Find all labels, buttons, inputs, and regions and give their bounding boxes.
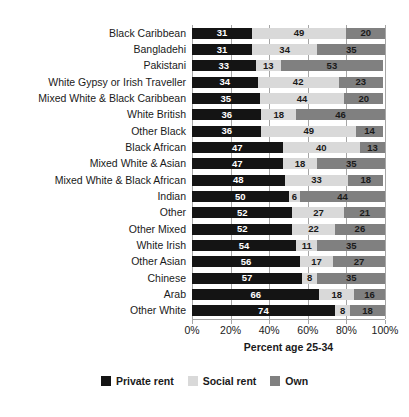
bar-segment-social[interactable]: 49 (252, 28, 347, 39)
bar-segment-private[interactable]: 74 (192, 305, 335, 316)
bar-segment-own[interactable]: 13 (360, 142, 385, 153)
plot-area: 3149203134353313533442233544203618463649… (192, 25, 385, 319)
bar-segment-own[interactable]: 27 (333, 256, 385, 267)
legend-swatch-private-icon (101, 376, 111, 386)
bar-segment-own[interactable]: 35 (317, 273, 385, 284)
bar-segment-own[interactable]: 35 (317, 240, 385, 251)
bar-segment-private[interactable]: 66 (192, 289, 319, 300)
bar-row[interactable]: 314920 (192, 28, 385, 39)
bar-rows: 3149203134353313533442233544203618463649… (192, 25, 385, 319)
bar-segment-social[interactable]: 44 (260, 93, 345, 104)
bar-row[interactable]: 541135 (192, 240, 385, 251)
bar-segment-private[interactable]: 57 (192, 273, 302, 284)
x-axis-tick-labels: 0%20%40%60%80%100% (192, 324, 385, 338)
bar-segment-own[interactable]: 26 (335, 224, 385, 235)
bar-row[interactable]: 474013 (192, 142, 385, 153)
legend-label: Own (285, 375, 308, 387)
bar-segment-social[interactable]: 17 (300, 256, 333, 267)
bar-segment-own[interactable]: 20 (344, 93, 383, 104)
bar-segment-private[interactable]: 56 (192, 256, 300, 267)
gridline (385, 25, 386, 319)
x-axis-tick-label: 80% (336, 324, 357, 336)
bar-value-label: 31 (217, 45, 228, 55)
bar-segment-own[interactable]: 35 (317, 158, 385, 169)
bar-segment-private[interactable]: 31 (192, 44, 252, 55)
bar-segment-social[interactable]: 34 (252, 44, 318, 55)
bar-segment-own[interactable]: 44 (300, 191, 385, 202)
bar-row[interactable]: 344223 (192, 77, 385, 88)
bar-segment-own[interactable]: 46 (296, 109, 385, 120)
bar-row[interactable]: 522721 (192, 207, 385, 218)
bar-segment-private[interactable]: 54 (192, 240, 296, 251)
bar-segment-social[interactable]: 33 (285, 175, 349, 186)
legend-item-own[interactable]: Own (270, 375, 308, 387)
category-axis-labels: Black CaribbeanBangladehiPakistaniWhite … (0, 25, 186, 319)
bar-segment-social[interactable]: 40 (283, 142, 360, 153)
bar-segment-social[interactable]: 8 (302, 273, 317, 284)
bar-segment-own[interactable]: 53 (281, 60, 383, 71)
bar-value-label: 13 (367, 143, 378, 153)
bar-row[interactable]: 561727 (192, 256, 385, 267)
legend-item-private[interactable]: Private rent (101, 375, 174, 387)
bar-row[interactable]: 364914 (192, 126, 385, 137)
bar-value-label: 40 (316, 143, 327, 153)
bar-row[interactable]: 483318 (192, 175, 385, 186)
bar-segment-social[interactable]: 6 (289, 191, 301, 202)
bar-segment-private[interactable]: 47 (192, 158, 283, 169)
bar-row[interactable]: 361846 (192, 109, 385, 120)
bar-segment-private[interactable]: 31 (192, 28, 252, 39)
bar-segment-social[interactable]: 8 (335, 305, 350, 316)
bar-segment-social[interactable]: 13 (256, 60, 281, 71)
bar-segment-own[interactable]: 20 (346, 28, 385, 39)
bar-segment-private[interactable]: 50 (192, 191, 289, 202)
bar-segment-social[interactable]: 27 (292, 207, 344, 218)
bar-row[interactable]: 522226 (192, 224, 385, 235)
legend-item-social[interactable]: Social rent (188, 375, 257, 387)
bar-value-label: 48 (233, 175, 244, 185)
bar-segment-private[interactable]: 47 (192, 142, 283, 153)
bar-segment-social[interactable]: 49 (261, 126, 356, 137)
bar-segment-own[interactable]: 16 (354, 289, 385, 300)
bar-segment-social[interactable]: 11 (296, 240, 317, 251)
bar-segment-social[interactable]: 18 (319, 289, 354, 300)
bar-segment-own[interactable]: 35 (317, 44, 385, 55)
bar-value-label: 49 (303, 126, 314, 136)
bar-row[interactable]: 471835 (192, 158, 385, 169)
bar-value-label: 26 (355, 224, 366, 234)
category-label: Mixed White & Asian (0, 158, 186, 169)
bar-segment-private[interactable]: 35 (192, 93, 260, 104)
bar-segment-own[interactable]: 23 (339, 77, 383, 88)
bar-value-label: 27 (354, 257, 365, 267)
bar-segment-social[interactable]: 18 (283, 158, 318, 169)
bar-row[interactable]: 50644 (192, 191, 385, 202)
bar-row[interactable]: 354420 (192, 93, 385, 104)
x-axis-tick-label: 20% (220, 324, 241, 336)
bar-segment-own[interactable]: 18 (350, 305, 385, 316)
bar-value-label: 35 (220, 94, 231, 104)
category-label: Chinese (0, 273, 186, 284)
category-label: Other White (0, 305, 186, 316)
bar-segment-private[interactable]: 34 (192, 77, 258, 88)
bar-segment-own[interactable]: 21 (344, 207, 385, 218)
bar-value-label: 33 (219, 61, 230, 71)
bar-value-label: 18 (360, 175, 371, 185)
bar-segment-social[interactable]: 22 (292, 224, 334, 235)
bar-row[interactable]: 74818 (192, 305, 385, 316)
bar-row[interactable]: 57835 (192, 273, 385, 284)
bar-segment-private[interactable]: 48 (192, 175, 285, 186)
bar-row[interactable]: 331353 (192, 60, 385, 71)
bar-segment-private[interactable]: 33 (192, 60, 256, 71)
category-label: White Irish (0, 240, 186, 251)
bar-segment-private[interactable]: 52 (192, 224, 292, 235)
bar-value-label: 20 (358, 94, 369, 104)
x-axis-tick-label: 60% (297, 324, 318, 336)
bar-segment-social[interactable]: 42 (258, 77, 339, 88)
bar-segment-own[interactable]: 14 (356, 126, 383, 137)
bar-segment-private[interactable]: 36 (192, 109, 261, 120)
bar-segment-own[interactable]: 18 (348, 175, 383, 186)
bar-segment-private[interactable]: 52 (192, 207, 292, 218)
bar-segment-private[interactable]: 36 (192, 126, 261, 137)
bar-row[interactable]: 313435 (192, 44, 385, 55)
bar-row[interactable]: 661816 (192, 289, 385, 300)
bar-segment-social[interactable]: 18 (261, 109, 296, 120)
